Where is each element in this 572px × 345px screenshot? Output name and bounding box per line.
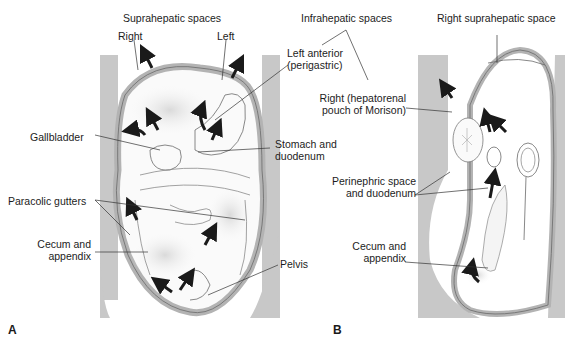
- label-duodenum-a: duodenum: [275, 150, 325, 162]
- label-left-anterior: Left anterior: [287, 47, 343, 59]
- label-stomach-and: Stomach and: [275, 138, 337, 150]
- label-left-suprahepatic: Left: [217, 30, 235, 42]
- label-right-hepatorenal: Right (hepatorenal: [300, 92, 406, 104]
- panel-letter-a: A: [8, 323, 17, 337]
- label-right-suprahepatic-space: Right suprahepatic space: [437, 12, 556, 24]
- diagram-artwork: [0, 0, 572, 345]
- panel-b-illustration: [322, 30, 565, 318]
- label-perigastric: (perigastric): [287, 59, 342, 71]
- label-suprahepatic-spaces: Suprahepatic spaces: [123, 12, 221, 24]
- label-perinephric-space: Perinephric space: [310, 175, 416, 187]
- label-cecum-a: Cecum and: [34, 238, 91, 250]
- label-gallbladder: Gallbladder: [30, 131, 84, 143]
- label-appendix-b: appendix: [340, 252, 406, 264]
- label-appendix-a: appendix: [34, 250, 91, 262]
- label-paracolic-gutters: Paracolic gutters: [8, 195, 86, 207]
- label-pouch-of-morison: pouch of Morison): [300, 104, 406, 116]
- panel-letter-b: B: [333, 323, 342, 337]
- label-and-duodenum: and duodenum: [310, 187, 416, 199]
- label-cecum-b: Cecum and: [340, 240, 406, 252]
- panel-a-illustration: [95, 40, 288, 318]
- label-pelvis: Pelvis: [280, 258, 308, 270]
- label-infrahepatic-spaces: Infrahepatic spaces: [301, 12, 392, 24]
- label-right-suprahepatic: Right: [118, 30, 143, 42]
